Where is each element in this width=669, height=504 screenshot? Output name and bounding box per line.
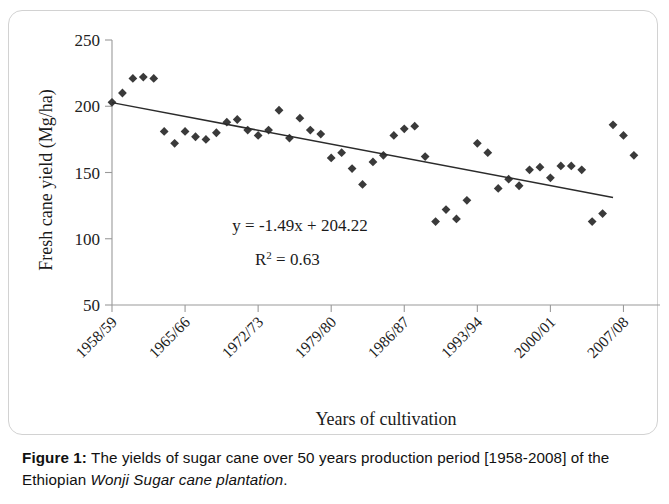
data-point: [515, 181, 524, 190]
data-point: [525, 165, 534, 174]
y-axis-ticks: 25020015010050: [75, 31, 113, 315]
data-point: [536, 163, 545, 172]
y-axis-title: Fresh cane yield (Mg/ha): [36, 89, 57, 270]
data-point: [598, 209, 607, 218]
data-point: [160, 127, 169, 136]
data-point: [630, 151, 639, 160]
r-squared-label: R2 = 0.63: [255, 249, 320, 269]
data-point: [108, 98, 117, 107]
data-point: [348, 164, 357, 173]
x-tick-label: 1972/73: [218, 313, 266, 361]
r-squared-value: = 0.63: [272, 250, 320, 269]
data-point: [452, 214, 461, 223]
data-point: [233, 115, 242, 124]
data-point: [504, 175, 513, 184]
data-point: [139, 73, 148, 82]
data-point: [254, 131, 263, 140]
data-point: [410, 122, 419, 131]
figure-caption-text-b: .: [283, 471, 287, 488]
data-point: [316, 130, 325, 139]
data-point: [369, 158, 378, 167]
data-point: [181, 127, 190, 136]
data-point: [275, 106, 284, 115]
y-tick-label: 50: [83, 296, 100, 315]
x-tick-label: 1965/66: [145, 313, 193, 361]
y-tick-label: 250: [75, 31, 101, 50]
y-tick-label: 150: [75, 164, 101, 183]
x-tick-label: 1958/59: [72, 313, 120, 361]
data-point: [473, 139, 482, 148]
scatter-chart-svg: Fresh cane yield (Mg/ha) Years of cultiv…: [0, 0, 669, 440]
data-point: [118, 89, 127, 98]
data-point: [442, 205, 451, 214]
x-tick-label: 1993/94: [438, 313, 486, 361]
data-point: [327, 154, 336, 163]
figure-root: Fresh cane yield (Mg/ha) Years of cultiv…: [0, 0, 669, 504]
data-point: [389, 131, 398, 140]
data-point: [212, 128, 221, 137]
data-point: [483, 148, 492, 157]
figure-caption-label: Figure 1:: [22, 449, 87, 466]
data-point: [494, 184, 503, 193]
data-point: [306, 126, 315, 135]
data-point: [619, 131, 628, 140]
data-point: [588, 217, 597, 226]
x-tick-label: 1986/87: [364, 313, 412, 361]
data-point: [358, 180, 367, 189]
chart-plot: Fresh cane yield (Mg/ha) Years of cultiv…: [0, 0, 669, 440]
data-point: [462, 196, 471, 205]
figure-caption-italic: Wonji Sugar cane plantation: [91, 471, 284, 488]
data-point-markers: [108, 73, 639, 226]
x-axis-title: Years of cultivation: [315, 409, 456, 429]
data-point: [202, 135, 211, 144]
data-point: [191, 132, 200, 141]
data-point: [431, 217, 440, 226]
figure-caption: Figure 1: The yields of sugar cane over …: [22, 447, 650, 491]
trendline-equation-label: y = -1.49x + 204.22: [232, 216, 367, 235]
data-point: [400, 124, 409, 133]
data-point: [170, 139, 179, 148]
x-axis-ticks: 1958/591965/661972/731979/801986/871993/…: [72, 305, 632, 361]
data-point: [556, 161, 565, 170]
data-point: [609, 120, 618, 129]
data-point: [337, 148, 346, 157]
r-squared-letter: R: [255, 250, 267, 269]
y-tick-label: 100: [75, 230, 101, 249]
data-point: [128, 74, 137, 83]
data-point: [546, 173, 555, 182]
data-point: [567, 161, 576, 170]
y-tick-label: 200: [75, 97, 101, 116]
x-tick-label: 2007/08: [584, 313, 632, 361]
x-tick-label: 1979/80: [291, 313, 339, 361]
data-point: [577, 165, 586, 174]
x-tick-label: 2000/01: [511, 313, 559, 361]
data-point: [421, 152, 430, 161]
data-point: [295, 114, 304, 123]
data-point: [149, 74, 158, 83]
